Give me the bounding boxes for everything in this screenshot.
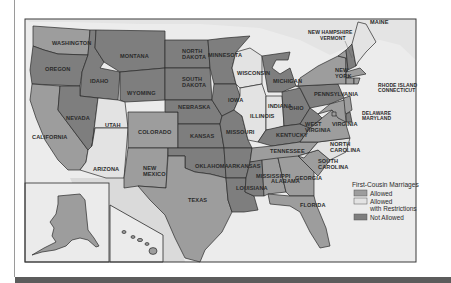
- state-label-west-virginia: VIRGINIA: [305, 127, 331, 133]
- state-label-pennsylvania: PENNSYLVANIA: [314, 91, 358, 97]
- hawaii-island: [149, 248, 157, 255]
- state-label-oklahoma: OKLAHOMA: [195, 163, 229, 169]
- legend-label-restricted-line1: Allowed: [370, 198, 393, 205]
- legend-swatch-allowed: [354, 190, 367, 196]
- state-label-california: CALIFORNIA: [32, 134, 68, 140]
- us-first-cousin-marriage-map: WASHINGTONOREGONCALIFORNIAIDAHONEVADAMON…: [0, 0, 451, 283]
- state-label-south-dakota: DAKOTA: [182, 82, 206, 88]
- state-label-wyoming: WYOMING: [127, 90, 156, 96]
- state-label-north-dakota: DAKOTA: [182, 54, 206, 60]
- hawaii-island: [145, 243, 149, 246]
- state-label-minnesota: MINNESOTA: [208, 52, 242, 58]
- hawaii-island: [131, 236, 135, 239]
- state-label-iowa: IOWA: [228, 97, 243, 103]
- state-label-tennessee: TENNESSEE: [270, 148, 305, 154]
- state-label-virginia: VIRGINIA: [332, 121, 358, 127]
- state-label-colorado: COLORADO: [138, 129, 172, 135]
- legend-label-restricted-line2: with Restrictions: [369, 205, 417, 212]
- state-label-maine: MAINE: [370, 19, 389, 25]
- legend-swatch-not-allowed: [354, 214, 367, 220]
- callout-connecticut: CONNECTICUT: [378, 87, 416, 93]
- state-label-idaho: IDAHO: [90, 78, 109, 84]
- state-label-kansas: KANSAS: [190, 133, 214, 139]
- legend-swatch-restricted: [354, 198, 367, 204]
- state-label-new-york: YORK: [335, 73, 352, 79]
- state-label-wisconsin: WISCONSIN: [237, 70, 270, 76]
- callout-maryland: MARYLAND: [362, 115, 392, 121]
- state-label-georgia: GEORGIA: [295, 175, 322, 181]
- state-dc[interactable]: [332, 112, 336, 116]
- state-label-michigan: MICHIGAN: [273, 78, 302, 84]
- legend-label-not-allowed: Not Allowed: [370, 214, 404, 221]
- state-label-oregon: OREGON: [45, 66, 70, 72]
- state-label-louisiana: LOUISIANA: [236, 185, 268, 191]
- state-label-illinois: ILLINOIS: [250, 113, 275, 119]
- state-label-texas: TEXAS: [188, 197, 207, 203]
- state-label-south-carolina: CAROLINA: [318, 164, 348, 170]
- legend-title: First-Cousin Marriages: [352, 181, 419, 189]
- state-label-kentucky: KENTUCKY: [276, 132, 308, 138]
- state-label-florida: FLORIDA: [300, 202, 326, 208]
- state-label-nevada: NEVADA: [66, 115, 90, 121]
- hawaii-island: [137, 238, 142, 241]
- bottom-divider-bar: [15, 277, 451, 283]
- hawaii-island: [122, 231, 126, 234]
- legend-label-allowed: Allowed: [370, 190, 393, 197]
- state-label-arizona: ARIZONA: [93, 166, 119, 172]
- state-wyoming[interactable]: [120, 68, 165, 102]
- state-label-arkansas: ARKANSAS: [228, 163, 261, 169]
- state-label-north-carolina: CAROLINA: [330, 147, 360, 153]
- callout-vermont: VERMONT: [320, 35, 346, 41]
- state-label-ohio: OHIO: [289, 105, 304, 111]
- state-label-washington: WASHINGTON: [52, 40, 91, 46]
- state-label-missouri: MISSOURI: [226, 129, 255, 135]
- state-label-montana: MONTANA: [120, 53, 149, 59]
- state-label-new-mexico: MEXICO: [143, 171, 166, 177]
- state-label-utah: UTAH: [105, 122, 121, 128]
- state-label-nebraska: NEBRASKA: [178, 104, 211, 110]
